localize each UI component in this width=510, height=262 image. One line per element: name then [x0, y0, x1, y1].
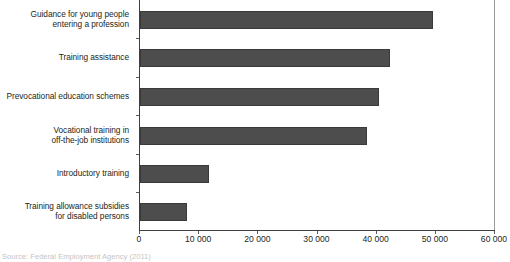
y-axis-minor-tick: [136, 192, 139, 193]
bar: [140, 88, 379, 106]
y-axis-minor-tick: [136, 77, 139, 78]
y-axis-minor-tick: [136, 38, 139, 39]
category-label-line: entering a profession: [0, 20, 129, 30]
category-label: Prevocational education schemes: [0, 92, 129, 102]
x-axis-tick-label: 30 000: [303, 234, 329, 245]
x-axis-tick-label: 20 000: [244, 234, 270, 245]
bar: [140, 165, 209, 183]
plot-area: [139, 0, 495, 231]
x-axis-tick-labels: 010 00020 00030 00040 00050 00060 000: [0, 234, 510, 248]
y-axis-minor-tick: [136, 115, 139, 116]
x-axis-tick-label: 60 000: [481, 234, 507, 245]
category-axis-labels: Guidance for young peopleentering a prof…: [0, 0, 134, 230]
category-label: Introductory training: [0, 169, 129, 179]
bar-chart-figure: Guidance for young peopleentering a prof…: [0, 0, 510, 262]
x-axis-tick-label: 10 000: [185, 234, 211, 245]
x-axis-tick-label: 40 000: [363, 234, 389, 245]
y-axis-minor-tick: [136, 154, 139, 155]
bar: [140, 49, 390, 67]
category-label: Training allowance subsidiesfor disabled…: [0, 202, 129, 221]
bar: [140, 11, 433, 29]
x-axis-tick-label: 50 000: [422, 234, 448, 245]
category-label-line: for disabled persons: [0, 212, 129, 222]
bar: [140, 203, 187, 221]
category-label-line: Training assistance: [0, 53, 129, 63]
category-label-line: off-the-job institutions: [0, 136, 129, 146]
category-label-line: Introductory training: [0, 169, 129, 179]
bar: [140, 127, 367, 145]
x-axis-tick-label: 0: [137, 234, 142, 245]
category-label: Training assistance: [0, 53, 129, 63]
y-axis-line: [139, 0, 140, 231]
category-label: Vocational training inoff-the-job instit…: [0, 126, 129, 145]
category-label: Guidance for young peopleentering a prof…: [0, 10, 129, 29]
category-label-line: Prevocational education schemes: [0, 92, 129, 102]
plot-right-border: [494, 0, 495, 231]
source-caption: Source: Federal Employment Agency (2011): [2, 252, 402, 261]
